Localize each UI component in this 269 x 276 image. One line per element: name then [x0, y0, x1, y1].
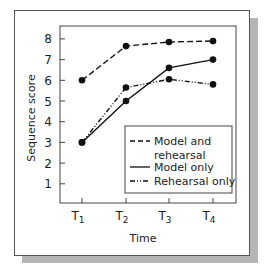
y-tick-label: 6 — [44, 74, 52, 88]
x-tick-label: T4 — [201, 209, 215, 225]
data-point — [166, 65, 173, 72]
legend: Model and rehearsal Model only Rehearsal… — [125, 126, 236, 193]
y-axis: 12345678 — [44, 32, 65, 191]
data-point — [210, 56, 217, 63]
x-axis-title: Time — [129, 232, 157, 245]
x-tick-label: T3 — [157, 209, 171, 225]
data-point — [166, 39, 173, 46]
data-point — [166, 76, 173, 83]
legend-label-model-and-rehearsal-line1: Model and — [154, 135, 211, 148]
y-tick-label: 3 — [44, 136, 52, 150]
legend-label-rehearsal-only: Rehearsal only — [154, 175, 236, 188]
data-point — [79, 77, 86, 84]
data-point — [123, 43, 130, 50]
line-chart: 12345678 T1T2T3T4 Sequence score Time Mo… — [0, 0, 269, 276]
data-point — [210, 81, 217, 88]
data-point — [123, 98, 130, 105]
data-point — [79, 139, 86, 146]
data-point — [123, 84, 130, 91]
x-tick-label: T2 — [114, 209, 128, 225]
x-axis: T1T2T3T4 — [70, 198, 215, 225]
data-point — [210, 38, 217, 45]
y-tick-label: 4 — [44, 115, 52, 129]
series-model-and-rehearsal — [82, 41, 213, 80]
y-axis-title: Sequence score — [25, 74, 38, 162]
x-tick-label: T1 — [70, 209, 84, 225]
legend-label-model-only: Model only — [154, 161, 214, 174]
y-tick-label: 5 — [44, 95, 52, 109]
y-tick-label: 7 — [44, 53, 52, 67]
y-tick-label: 1 — [44, 177, 52, 191]
y-tick-label: 8 — [44, 32, 52, 46]
y-tick-label: 2 — [44, 157, 52, 171]
